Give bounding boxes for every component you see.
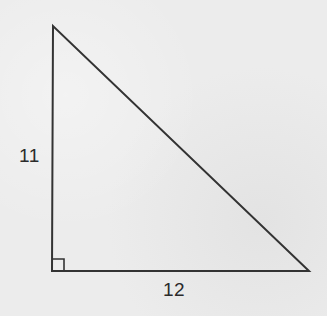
vertical-leg-label: 11	[19, 146, 40, 165]
right-angle-marker	[52, 259, 64, 271]
horizontal-leg-label: 12	[163, 280, 185, 299]
diagram-canvas: 11 12	[0, 0, 327, 316]
triangle-shape	[52, 26, 309, 271]
right-triangle	[0, 0, 327, 316]
